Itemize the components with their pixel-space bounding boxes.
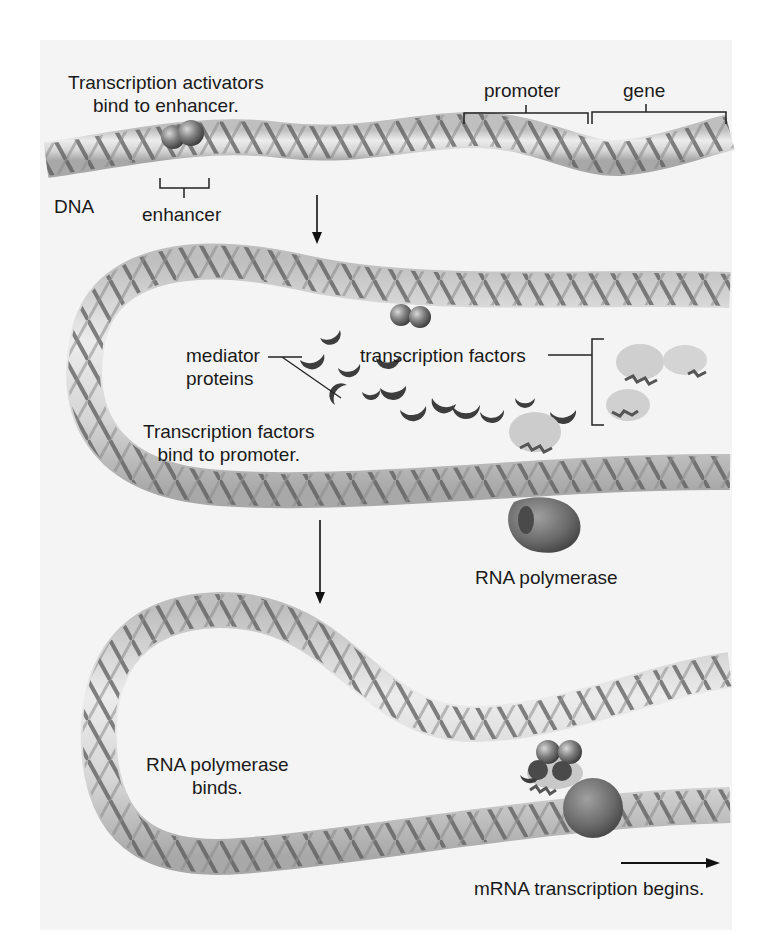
- label-gene: gene: [623, 79, 665, 102]
- label-promoter: promoter: [484, 79, 560, 102]
- caption-line-2: bind to promoter.: [143, 443, 314, 466]
- mediator-line-1: mediator: [186, 344, 260, 367]
- caption-activators-bind: Transcription activators bind to enhance…: [68, 71, 264, 117]
- mediator-line-2: proteins: [186, 367, 260, 390]
- label-mediator-proteins: mediator proteins: [186, 344, 260, 390]
- caption-line-2: binds.: [146, 776, 289, 799]
- label-rna-polymerase: RNA polymerase: [475, 566, 618, 589]
- caption-line-1: Transcription factors: [143, 420, 314, 443]
- caption-line-2: bind to enhancer.: [68, 94, 264, 117]
- diagram-artwork: [0, 0, 776, 946]
- caption-polymerase-binds: RNA polymerase binds.: [146, 753, 289, 799]
- caption-factors-bind: Transcription factors bind to promoter.: [143, 420, 314, 466]
- caption-line-1: RNA polymerase: [146, 753, 289, 776]
- caption-line-1: Transcription activators: [68, 71, 264, 94]
- label-dna: DNA: [54, 195, 94, 218]
- rna-polymerase-bound: [563, 778, 623, 838]
- label-enhancer: enhancer: [142, 203, 221, 226]
- label-mrna-transcription: mRNA transcription begins.: [474, 877, 704, 900]
- label-transcription-factors: transcription factors: [360, 344, 526, 367]
